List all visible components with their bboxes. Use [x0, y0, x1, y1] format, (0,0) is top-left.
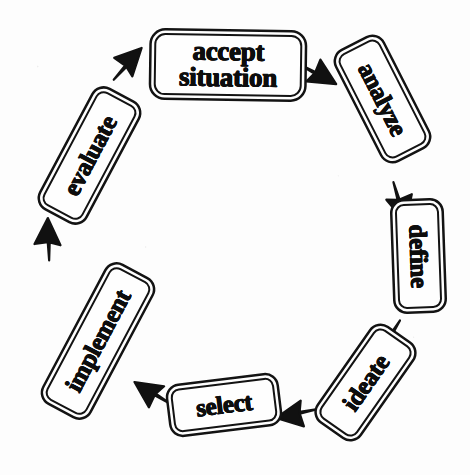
- step-node-define[interactable]: define: [395, 203, 443, 309]
- arrow-implement-to-evaluate-icon: [24, 214, 68, 263]
- arrow-ideate-to-select-icon: [272, 394, 321, 438]
- step-label-select: select: [195, 390, 254, 420]
- step-node-analyze[interactable]: analyze: [335, 36, 429, 161]
- step-node-select[interactable]: select: [170, 377, 279, 433]
- process-cycle-diagram: acceptsituation analyze define ideate se…: [0, 0, 470, 475]
- step-label-implement: implement: [61, 286, 134, 395]
- step-label-accept-situation: acceptsituation: [179, 39, 278, 92]
- step-label-ideate: ideate: [338, 350, 393, 414]
- step-label-analyze: analyze: [354, 59, 411, 140]
- step-node-ideate[interactable]: ideate: [316, 325, 415, 440]
- step-node-evaluate[interactable]: evaluate: [39, 88, 139, 223]
- step-node-accept-situation[interactable]: acceptsituation: [154, 33, 303, 97]
- arrow-evaluate-to-accept-situation-icon: [96, 32, 157, 93]
- step-label-evaluate: evaluate: [59, 112, 121, 199]
- step-label-define: define: [406, 224, 432, 288]
